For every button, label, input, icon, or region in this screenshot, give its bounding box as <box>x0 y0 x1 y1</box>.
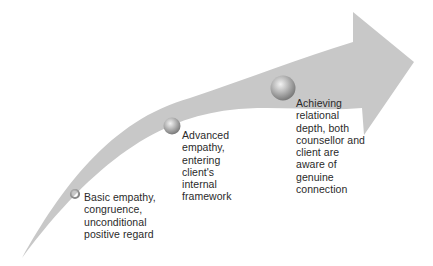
stage-3-label: Achieving relational depth, both counsel… <box>296 97 365 195</box>
stage-3-marker-icon <box>271 76 296 101</box>
relational-depth-diagram: Basic empathy, congruence, unconditional… <box>0 0 433 266</box>
stage-2-label: Advanced empathy, entering client's inte… <box>182 129 231 203</box>
stage-2-marker-icon <box>164 118 181 135</box>
stage-1-label: Basic empathy, congruence, unconditional… <box>84 191 156 240</box>
